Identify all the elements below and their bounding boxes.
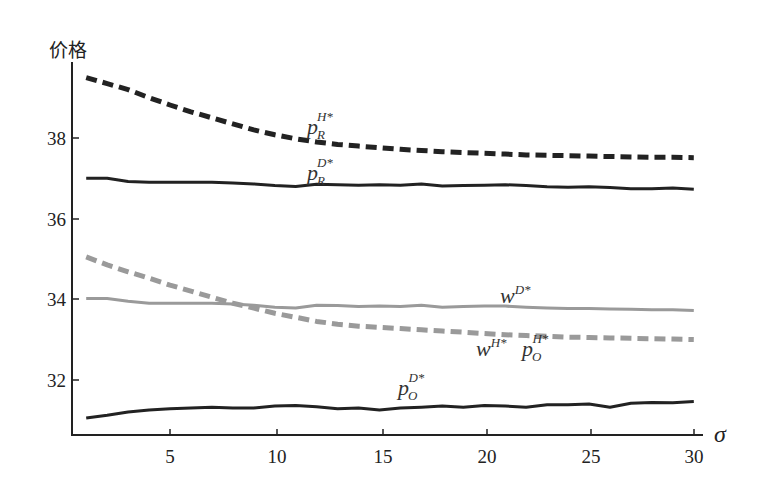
y-axis-title: 价格 [49,39,87,61]
y-tick-label: 32 [47,370,66,391]
price-vs-sigma-chart: 38 36 34 32 5 10 15 20 25 30 价格 σ pRH* p… [0,0,764,495]
series-line-4 [86,402,694,419]
y-tick-label: 34 [47,289,67,310]
series-layer [86,78,694,419]
x-tick-label: 10 [268,446,287,467]
label-pO-H: pOH* [520,331,549,364]
x-axis-title: σ [714,421,727,447]
series-line-1 [86,178,694,189]
x-tick-label: 5 [165,446,175,467]
label-w-H: wH* [476,335,507,361]
y-ticks: 38 36 34 32 [47,128,79,391]
label-pO-D: pOD* [396,370,425,403]
x-tick-label: 20 [478,446,497,467]
y-tick-label: 36 [47,209,66,230]
label-w-D: wD* [500,282,531,308]
x-tick-label: 25 [582,446,601,467]
y-tick-label: 38 [47,128,66,149]
axes [71,62,703,436]
series-line-3 [86,257,694,340]
x-tick-label: 30 [685,446,704,467]
series-line-2 [86,298,694,310]
series-line-0 [86,78,694,158]
label-pR-H: pRH* [305,109,333,142]
x-tick-label: 15 [374,446,393,467]
